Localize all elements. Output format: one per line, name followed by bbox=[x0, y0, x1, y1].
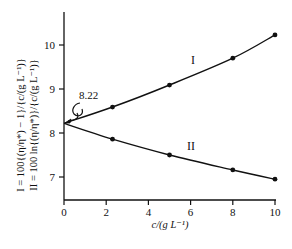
series-line-II bbox=[64, 123, 275, 179]
y-axis-title: I = 100{(η/η*) − 1}/{c/(g L⁻¹)} II = 100… bbox=[15, 58, 40, 192]
squiggle-arrow-icon bbox=[65, 103, 82, 123]
x-tick-label: 10 bbox=[270, 206, 282, 218]
data-point bbox=[167, 83, 172, 88]
data-point bbox=[230, 168, 235, 173]
data-point bbox=[230, 56, 235, 61]
y-ticks: 78910 bbox=[44, 39, 64, 183]
x-ticks: 0246810 bbox=[61, 200, 281, 218]
series-label-I: I bbox=[191, 53, 195, 67]
series-label-II: II bbox=[187, 139, 195, 153]
y-axis-title-line-2: II = 100 ln{(η/η*)}/{c/(g L⁻¹)} bbox=[28, 59, 40, 190]
x-tick-label: 6 bbox=[188, 206, 194, 218]
data-point bbox=[167, 153, 172, 158]
x-tick-label: 8 bbox=[230, 206, 236, 218]
data-point bbox=[273, 177, 278, 182]
x-tick-label: 2 bbox=[103, 206, 109, 218]
x-axis-title: c/(g L⁻¹) bbox=[152, 219, 189, 231]
y-tick-label: 10 bbox=[44, 39, 56, 51]
y-axis-title-line-1: I = 100{(η/η*) − 1}/{c/(g L⁻¹)} bbox=[15, 58, 27, 192]
data-point bbox=[110, 137, 115, 142]
y-tick-label: 9 bbox=[50, 83, 56, 95]
series-layer bbox=[64, 32, 277, 181]
axes bbox=[64, 12, 276, 200]
series-line-I bbox=[64, 35, 275, 123]
intrinsic-viscosity-chart: 78910 0246810 I II 8.22 c/(g L⁻¹) I = 10… bbox=[0, 0, 292, 249]
data-point bbox=[110, 105, 115, 110]
data-point bbox=[273, 32, 278, 37]
y-tick-label: 8 bbox=[50, 127, 56, 139]
intercept-annotation: 8.22 bbox=[79, 89, 98, 101]
y-tick-label: 7 bbox=[50, 171, 56, 183]
x-tick-label: 4 bbox=[146, 206, 152, 218]
x-tick-label: 0 bbox=[61, 206, 67, 218]
